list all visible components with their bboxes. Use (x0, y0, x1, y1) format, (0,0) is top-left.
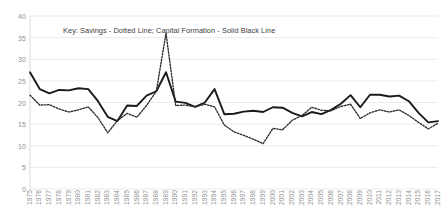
y-axis-tick: 5 (0, 164, 26, 171)
y-axis-tick: 20 (0, 99, 26, 106)
x-axis-tick: 1981 (85, 190, 92, 205)
series-line-capital-formation (30, 72, 438, 122)
x-axis-tick: 1980 (75, 190, 82, 205)
y-axis-tick: 30 (0, 56, 26, 63)
x-axis-tick: 1977 (46, 190, 53, 205)
x-axis-tick: 1985 (124, 190, 131, 205)
x-axis-tick: 2005 (318, 190, 325, 205)
x-axis-tick: 1976 (36, 190, 43, 205)
x-axis-tick: 2011 (376, 190, 383, 205)
x-axis-tick: 1979 (66, 190, 73, 205)
x-axis-tick: 1982 (95, 190, 102, 205)
x-axis-tick: 2004 (308, 190, 315, 205)
x-axis-tick: 1975 (27, 190, 34, 205)
x-axis-tick: 2000 (270, 190, 277, 205)
line-chart: 0510152025303540 Key: Savings - Dotted L… (0, 0, 445, 224)
x-axis-tick: 1984 (114, 190, 121, 205)
x-axis-tick: 1988 (153, 190, 160, 205)
y-axis-tick-labels: 0510152025303540 (0, 16, 26, 189)
x-axis-tick: 1995 (221, 190, 228, 205)
x-axis-tick: 2003 (299, 190, 306, 205)
x-axis-tick: 2009 (357, 190, 364, 205)
x-axis-tick: 1997 (240, 190, 247, 205)
x-axis-tick: 2001 (279, 190, 286, 205)
x-axis-tick: 1987 (143, 190, 150, 205)
y-axis-tick: 10 (0, 142, 26, 149)
x-axis-tick: 1999 (260, 190, 267, 205)
legend-key-note: Key: Savings - Dotted Line; Capital Form… (63, 26, 275, 35)
x-axis-tick: 2015 (415, 190, 422, 205)
x-axis-tick: 1978 (56, 190, 63, 205)
x-axis-tick: 1989 (163, 190, 170, 205)
x-axis-tick: 1998 (250, 190, 257, 205)
x-axis-tick: 1986 (134, 190, 141, 205)
x-axis-tick: 2010 (367, 190, 374, 205)
x-axis-tick: 2002 (289, 190, 296, 205)
x-axis-tick: 1994 (211, 190, 218, 205)
y-axis-tick: 40 (0, 13, 26, 20)
x-axis-tick: 2007 (338, 190, 345, 205)
x-axis-tick: 2008 (347, 190, 354, 205)
x-axis-tick-labels: 1975197619771978197919801981198219831984… (30, 190, 438, 224)
x-axis-tick: 2014 (406, 190, 413, 205)
x-axis-tick: 1996 (231, 190, 238, 205)
y-axis-tick: 35 (0, 34, 26, 41)
y-axis-tick: 0 (0, 186, 26, 193)
x-axis-tick: 1983 (104, 190, 111, 205)
x-axis-tick: 2012 (386, 190, 393, 205)
x-axis-tick: 1993 (202, 190, 209, 205)
x-axis-tick: 2006 (328, 190, 335, 205)
x-axis-tick: 2017 (435, 190, 442, 205)
y-axis-tick: 25 (0, 77, 26, 84)
x-axis-tick: 1992 (192, 190, 199, 205)
x-axis-tick: 1991 (182, 190, 189, 205)
y-axis-tick: 15 (0, 121, 26, 128)
x-axis-tick: 2013 (396, 190, 403, 205)
x-axis-tick: 2016 (425, 190, 432, 205)
data-series-layer (30, 16, 438, 189)
x-axis-tick: 1990 (172, 190, 179, 205)
series-line-savings (30, 33, 438, 143)
plot-area (30, 16, 438, 189)
